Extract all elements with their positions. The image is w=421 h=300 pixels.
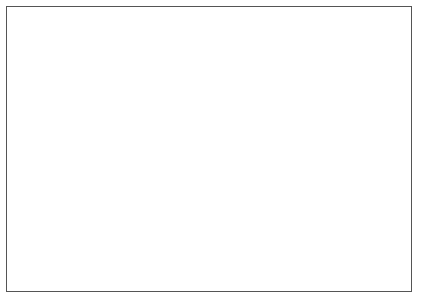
chart-screenshot: 010203040506070 012345678910 19571960196… bbox=[0, 0, 421, 300]
chart-frame-border bbox=[6, 6, 412, 292]
